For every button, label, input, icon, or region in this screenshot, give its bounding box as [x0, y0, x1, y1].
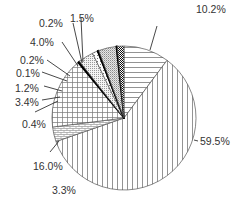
slice-label: 0.2%: [20, 54, 44, 66]
slice-label: 1.2%: [15, 82, 39, 94]
leader-line: [81, 18, 83, 62]
leader-line: [150, 26, 157, 50]
slice-label: 16.0%: [33, 160, 63, 172]
leader-line: [47, 60, 70, 76]
slice-label: 10.2%: [196, 3, 226, 15]
leader-line: [194, 140, 198, 141]
leader-line: [62, 42, 78, 66]
slice-label: 3.3%: [52, 184, 76, 196]
leader-line: [73, 23, 82, 63]
slice-label: 0.4%: [22, 118, 46, 130]
slice-label: 0.2%: [39, 17, 63, 29]
slice-label: 0.1%: [16, 67, 40, 79]
pie-slices: [52, 46, 196, 190]
slice-label: 1.5%: [70, 12, 94, 24]
slice-label: 59.5%: [200, 135, 230, 147]
slice-label: 3.4%: [15, 96, 39, 108]
slice-label: 4.0%: [30, 36, 54, 48]
leader-line: [42, 72, 67, 81]
